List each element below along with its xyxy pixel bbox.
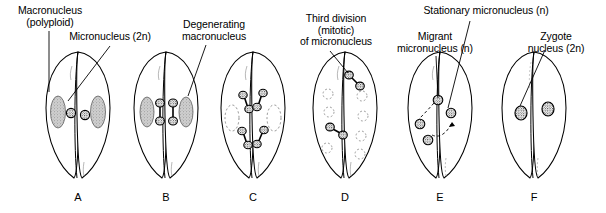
- macronucleus-shape: [179, 97, 193, 127]
- stationary-micronucleus-shape: [446, 108, 456, 118]
- figure-canvas: Macronucleus (polyploid) Micronucleus (2…: [0, 0, 606, 213]
- micronucleus-shape: [415, 119, 425, 129]
- macronucleus-shape: [91, 96, 106, 128]
- panel-letter-e: E: [420, 191, 460, 203]
- label-micronucleus: Micronucleus (2n): [62, 31, 158, 43]
- macronucleus-shape: [140, 97, 154, 127]
- panel-c: [221, 52, 285, 178]
- panel-letter-b: B: [146, 191, 186, 203]
- panel-letter-f: F: [514, 191, 554, 203]
- leader-line-degenerating-macronucleus: [188, 45, 206, 96]
- panel-d: [313, 52, 377, 178]
- label-third-division: Third division (mitotic) of micronucleus: [290, 13, 382, 48]
- label-stationary-micronucleus: Stationary micronucleus (n): [411, 5, 561, 17]
- zygote-nucleus-shape: [515, 106, 527, 120]
- panel-e: [408, 52, 472, 178]
- panel-letter-c: C: [233, 191, 273, 203]
- zygote-nucleus-shape: [542, 102, 554, 116]
- macronucleus-shape: [51, 96, 66, 128]
- label-degenerating-macronucleus: Degenerating macronucleus: [172, 19, 256, 42]
- panel-f: [502, 52, 566, 178]
- micronucleus-shape: [66, 108, 75, 117]
- panel-b: [134, 52, 198, 178]
- label-macronucleus: Macronucleus (polyploid): [3, 5, 97, 28]
- panel-letter-d: D: [325, 191, 365, 203]
- micronucleus-shape: [80, 110, 89, 119]
- label-migrant-micronucleus: Migrant micronucleus (n): [389, 31, 481, 54]
- label-zygote-nucleus: Zygote nucleus (2n): [515, 31, 597, 54]
- micronucleus-shape: [423, 135, 433, 145]
- panel-letter-a: A: [58, 191, 98, 203]
- panel-a: [46, 52, 110, 178]
